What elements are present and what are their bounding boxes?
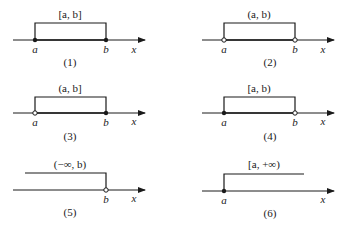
interval-diagram: [a, b] a b x (1) (a, b) a b x (2) (a, b]… [0, 0, 341, 228]
axis-label-x: x [131, 115, 137, 127]
closed-endpoint-b [104, 38, 108, 42]
point-label-a: a [221, 194, 227, 206]
open-endpoint-b [293, 38, 297, 42]
closed-endpoint-a [222, 189, 226, 193]
panel-number: (1) [64, 56, 77, 69]
axis-label-x: x [320, 193, 326, 205]
point-label-b: b [103, 43, 109, 55]
interval-bracket [224, 97, 295, 113]
point-label-a: a [221, 43, 227, 55]
interval-label: [a, +∞) [248, 158, 280, 171]
closed-endpoint-a [33, 38, 37, 42]
panel-4: [a, b) a b x (4) [202, 82, 334, 143]
panel-number: (3) [64, 130, 77, 143]
panel-number: (5) [64, 206, 77, 219]
panel-5: (−∞, b) b x (5) [13, 158, 145, 219]
panel-2: (a, b) a b x (2) [202, 8, 334, 69]
interval-label: (−∞, b) [54, 158, 87, 171]
closed-endpoint-b [104, 111, 108, 115]
panel-1: [a, b] a b x (1) [13, 8, 145, 69]
point-label-b: b [292, 43, 298, 55]
interval-bracket [224, 174, 304, 191]
axis-label-x: x [131, 192, 137, 204]
interval-label: [a, b) [247, 82, 271, 95]
open-endpoint-b [293, 111, 297, 115]
point-label-a: a [32, 116, 38, 128]
panel-6: [a, +∞) a x (6) [202, 158, 334, 220]
interval-bracket [35, 23, 106, 40]
interval-bracket [25, 173, 106, 190]
axis-label-x: x [320, 43, 326, 55]
point-label-a: a [32, 43, 38, 55]
closed-endpoint-a [222, 111, 226, 115]
point-label-b: b [103, 193, 109, 205]
interval-label: (a, b] [58, 82, 81, 95]
point-label-b: b [103, 116, 109, 128]
interval-label: [a, b] [58, 8, 81, 20]
interval-bracket [224, 23, 295, 40]
open-endpoint-a [33, 111, 37, 115]
open-endpoint-b [104, 188, 108, 192]
point-label-a: a [221, 116, 227, 128]
point-label-b: b [292, 116, 298, 128]
panel-number: (2) [264, 56, 277, 69]
interval-label: (a, b) [247, 8, 271, 21]
interval-bracket [35, 97, 106, 113]
panel-number: (6) [264, 207, 277, 220]
axis-label-x: x [131, 43, 137, 55]
axis-label-x: x [320, 115, 326, 127]
panel-3: (a, b] a b x (3) [13, 82, 145, 143]
open-endpoint-a [222, 38, 226, 42]
panel-number: (4) [264, 130, 277, 143]
